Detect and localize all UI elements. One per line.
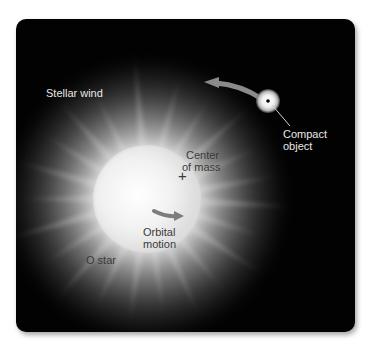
label-orbital-motion-line2: motion: [143, 238, 176, 250]
label-orbital-motion-line1: Orbital: [143, 226, 175, 238]
center-of-mass-marker: +: [178, 170, 187, 182]
diagram-panel: Stellar wind Compact object Center of ma…: [16, 19, 355, 332]
label-compact-object-line1: Compact: [283, 128, 327, 140]
label-center-of-mass-line1: Center: [186, 149, 219, 161]
label-compact-object-line2: object: [283, 140, 312, 152]
compact-object-core: [266, 99, 270, 103]
label-o-star: O star: [86, 254, 116, 266]
label-center-of-mass-line2: of mass: [182, 161, 221, 173]
label-stellar-wind: Stellar wind: [46, 87, 103, 99]
